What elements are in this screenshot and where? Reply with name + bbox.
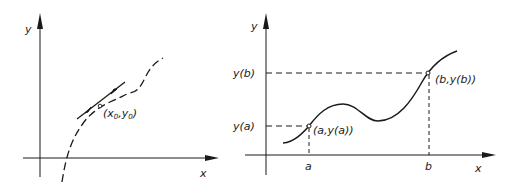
right-x-axis-arrow-icon — [482, 152, 496, 158]
point-b — [426, 71, 430, 75]
left-x-axis-arrow-icon — [205, 155, 219, 161]
left-y-axis-label: y — [24, 23, 32, 36]
point-a-label: (a,y(a)) — [313, 124, 354, 137]
point-x0-y0-label: (x0,y0) — [103, 107, 137, 121]
left-y-axis-arrow-icon — [37, 13, 43, 29]
a-tick-label: a — [305, 160, 312, 173]
y-b-tick-label: y(b) — [232, 67, 255, 80]
right-y-axis-arrow-icon — [263, 13, 269, 29]
left-panel: y x (x0,y0) — [23, 13, 219, 182]
left-dashed-curve — [62, 58, 163, 182]
right-x-axis-label: x — [474, 162, 482, 175]
right-panel: y x y(b) y(a) a b (a,y(a)) (b,y(b)) — [232, 13, 496, 175]
b-tick-label: b — [425, 160, 432, 173]
tangent-arrow-left-icon — [85, 107, 91, 113]
right-y-axis-label: y — [250, 20, 258, 33]
point-b-label: (b,y(b)) — [435, 73, 476, 86]
left-x-axis-label: x — [199, 167, 207, 180]
point-x0-y0 — [98, 104, 102, 108]
diagram-canvas: y x (x0,y0) y x y(b) y(a) a b (a,y(a)) (… — [0, 0, 515, 185]
point-a — [307, 124, 311, 128]
y-a-tick-label: y(a) — [232, 120, 255, 133]
